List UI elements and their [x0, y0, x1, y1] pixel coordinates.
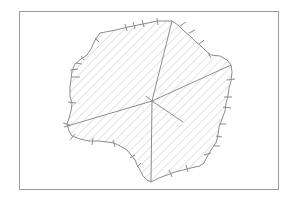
center-point [151, 100, 153, 102]
tick-mark [180, 22, 186, 26]
tick-mark [199, 40, 204, 44]
tick-mark [189, 30, 195, 33]
diagram-canvas [0, 0, 294, 204]
diagram-svg [0, 0, 294, 204]
